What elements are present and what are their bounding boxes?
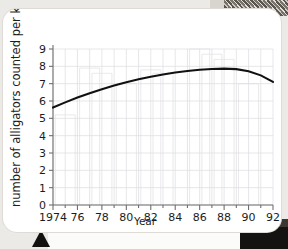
- bottom-white-strip: [48, 229, 240, 249]
- x-tick-label: 90: [242, 211, 256, 224]
- triangle-marker-icon: [31, 230, 51, 248]
- x-axis-label: Year: [133, 215, 157, 227]
- chart-card: 01234567891974767880828486889092 number …: [3, 9, 281, 232]
- y-tick-label: 6: [39, 95, 46, 108]
- x-tick-label: 88: [217, 211, 231, 224]
- chart-figure: 01234567891974767880828486889092 number …: [3, 9, 281, 232]
- y-tick-label: 4: [39, 130, 46, 143]
- x-tick-label: 76: [70, 211, 84, 224]
- x-tick-label: 86: [193, 211, 207, 224]
- x-tick-label: 92: [266, 211, 280, 224]
- y-tick-label: 2: [39, 164, 46, 177]
- y-tick-label: 8: [39, 60, 46, 73]
- y-tick-label: 7: [39, 78, 46, 91]
- ghost-bars-layer: [55, 49, 258, 205]
- y-tick-label: 1: [39, 182, 46, 195]
- y-axis-label: number of alligators counted per kilomet…: [9, 9, 23, 207]
- y-tick-label: 3: [39, 147, 46, 160]
- x-tick-label: 84: [168, 211, 182, 224]
- y-tick-label: 9: [39, 43, 46, 56]
- x-tick-label: 78: [95, 211, 109, 224]
- y-tick-label: 5: [39, 112, 46, 125]
- x-tick-label: 80: [119, 211, 133, 224]
- chart-svg: 01234567891974767880828486889092 number …: [3, 9, 281, 232]
- gridlines-layer: [53, 49, 273, 205]
- x-tick-label: 1974: [39, 211, 67, 224]
